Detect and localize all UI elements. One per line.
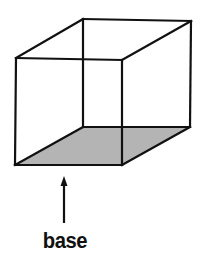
back-right-edge: [190, 21, 191, 127]
base-face: [15, 127, 190, 165]
back-top-edge: [83, 19, 191, 21]
cube-diagram: [0, 0, 205, 261]
arrow-up-icon: [61, 176, 68, 186]
front-top-edge: [16, 58, 122, 60]
front-left-edge: [15, 58, 16, 165]
connect-top-left-edge: [16, 19, 83, 58]
connect-top-right-edge: [122, 21, 191, 60]
base-label: base: [42, 228, 88, 254]
